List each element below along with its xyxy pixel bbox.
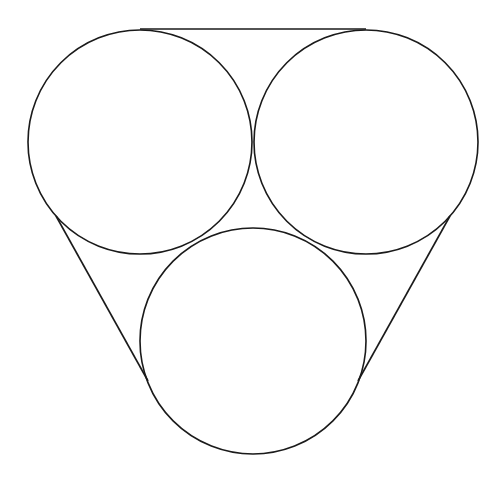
tangent-line-right [358,216,450,381]
circles-group [28,30,478,454]
tangent-line-left [56,216,148,381]
circle-bottom [140,228,366,454]
diagram-canvas [0,0,490,479]
circle-top-right [254,30,478,254]
tangent-lines-group [56,29,450,381]
circle-top-left [28,30,252,254]
three-circles-belt-diagram [0,0,490,479]
